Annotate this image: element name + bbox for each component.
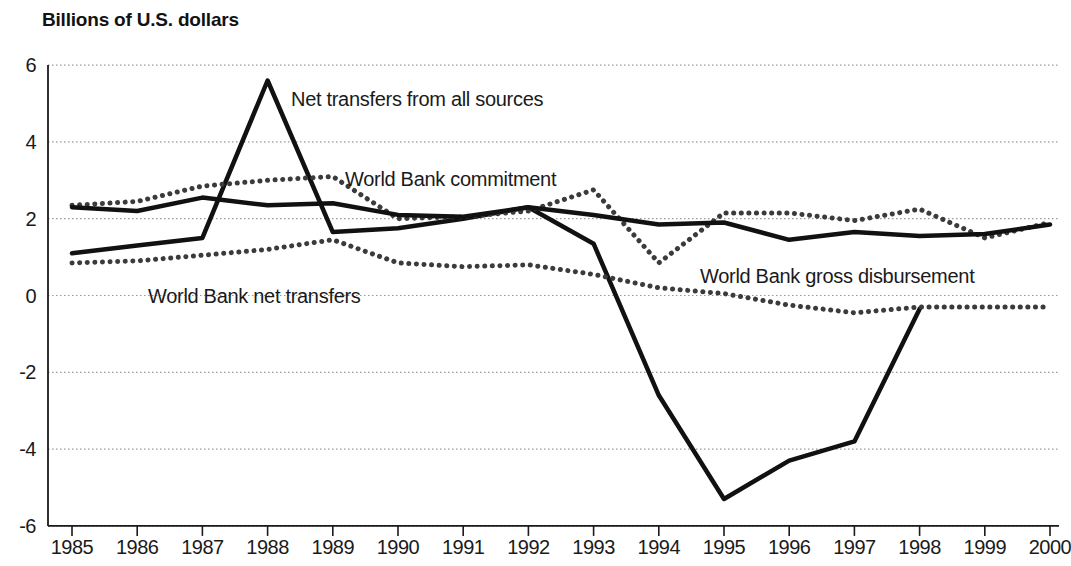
y-tick-label: 2 xyxy=(2,207,36,230)
x-tick-label: 1997 xyxy=(833,536,876,559)
series-label: World Bank net transfers xyxy=(148,285,361,308)
y-tick-label: 0 xyxy=(2,284,36,307)
x-tick-label: 1991 xyxy=(442,536,485,559)
x-tick-label: 2000 xyxy=(1029,536,1071,559)
x-tick-label: 1993 xyxy=(572,536,615,559)
series-label: Net transfers from all sources xyxy=(291,88,543,111)
x-tick-label: 1990 xyxy=(377,536,420,559)
x-tick-label: 1995 xyxy=(703,536,746,559)
series-label: World Bank commitment xyxy=(345,168,556,191)
x-tick-label: 1985 xyxy=(51,536,94,559)
x-tick-label: 1989 xyxy=(312,536,355,559)
x-tick-label: 1987 xyxy=(181,536,224,559)
y-tick-label: -6 xyxy=(2,514,36,537)
y-tick-label: -4 xyxy=(2,438,36,461)
x-axis-tick-marks xyxy=(72,526,1050,536)
x-tick-label: 1998 xyxy=(898,536,941,559)
y-tick-label: 4 xyxy=(2,130,36,153)
x-tick-label: 1986 xyxy=(116,536,159,559)
x-tick-label: 1996 xyxy=(768,536,811,559)
x-tick-label: 1999 xyxy=(964,536,1007,559)
series-label: World Bank gross disbursement xyxy=(700,265,974,288)
x-tick-label: 1994 xyxy=(638,536,681,559)
y-tick-label: -2 xyxy=(2,361,36,384)
x-tick-label: 1992 xyxy=(507,536,550,559)
y-tick-label: 6 xyxy=(2,54,36,77)
series-line-1 xyxy=(72,177,1050,263)
x-tick-label: 1988 xyxy=(246,536,289,559)
